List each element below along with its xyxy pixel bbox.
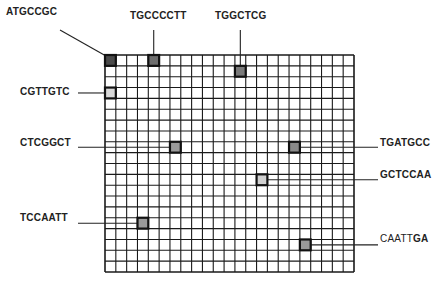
probe-spot [289, 142, 300, 153]
probe-spot [170, 142, 181, 153]
probe-label-bold: GA [413, 233, 428, 244]
probe-label: CAATTGA [380, 233, 428, 244]
probe-spot [300, 239, 311, 250]
probe-spot [105, 88, 116, 99]
probe-label: TCCAATT [20, 212, 68, 223]
probe-spot [257, 174, 268, 185]
leader-line [60, 30, 106, 56]
probe-label: TGCCCCTT [130, 10, 187, 21]
probe-label: GCTCCAA [380, 169, 431, 180]
probe-spot [137, 218, 148, 229]
probe-label: ATGCCGC [6, 6, 57, 17]
probe-label: CGTTGTC [20, 86, 70, 97]
probe-label: TGGCTCG [215, 10, 266, 21]
probe-label-plain: CAATT [380, 233, 413, 244]
probe-label: TGATGCC [380, 137, 430, 148]
probe-spot [235, 66, 246, 77]
probe-spot [148, 55, 159, 66]
probe-label: CTCGGCT [20, 137, 71, 148]
probe-spot [105, 55, 116, 66]
